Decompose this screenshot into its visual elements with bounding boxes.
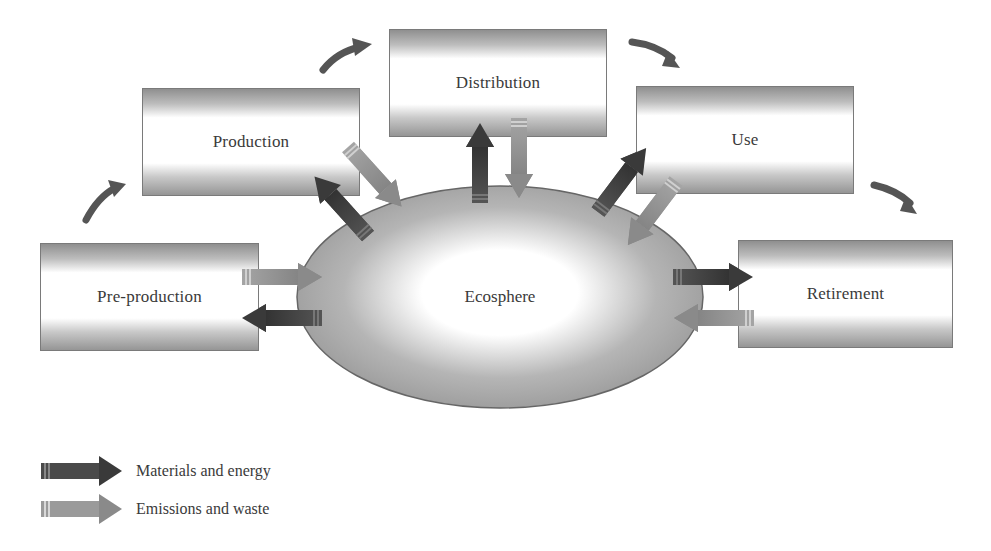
stage-label: Production xyxy=(213,132,290,152)
life-cycle-diagram: Pre-production Production Distribution U… xyxy=(0,0,991,551)
legend-label: Materials and energy xyxy=(136,462,271,480)
legend-label: Emissions and waste xyxy=(136,500,269,518)
ecosphere-label: Ecosphere xyxy=(420,287,580,307)
legend-item-emissions: Emissions and waste xyxy=(40,490,271,528)
stage-label: Distribution xyxy=(456,73,541,93)
dark-arrow-icon xyxy=(40,455,122,487)
stage-box-distribution: Distribution xyxy=(389,29,607,137)
stage-box-use: Use xyxy=(636,86,854,194)
light-arrow-icon xyxy=(40,493,122,525)
legend-item-materials: Materials and energy xyxy=(40,452,271,490)
stage-label: Pre-production xyxy=(97,287,202,307)
legend: Materials and energy Emissions and waste xyxy=(40,452,271,528)
stage-box-production: Production xyxy=(142,88,360,196)
stage-box-pre-production: Pre-production xyxy=(40,243,259,351)
stage-label: Retirement xyxy=(807,284,885,304)
stage-box-retirement: Retirement xyxy=(738,240,953,348)
stage-label: Use xyxy=(731,130,758,150)
